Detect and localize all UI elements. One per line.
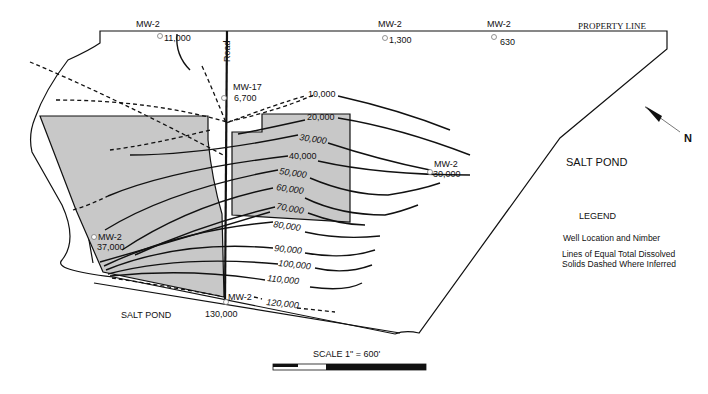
well-marker[interactable] — [222, 96, 227, 101]
scale-segment — [326, 364, 426, 370]
north-arrow-head-icon — [645, 106, 662, 122]
road-label: Road — [222, 40, 232, 62]
isoline-label: 40,000 — [289, 151, 317, 161]
well-id-label: MW-17 — [233, 82, 262, 92]
north-arrow: N — [645, 106, 692, 144]
well-value-label: 30,000 — [433, 169, 461, 179]
legend-item-well: Well Location and Nimber — [563, 233, 660, 243]
legend-item-isoline-2: Solids Dashed Where Inferred — [562, 259, 676, 269]
scale-segment — [273, 364, 298, 367]
well-marker[interactable] — [492, 35, 497, 40]
isoline-label: 10,000 — [308, 89, 336, 99]
well-marker[interactable] — [92, 235, 97, 240]
isoline-label: 100,000 — [278, 258, 311, 271]
well-marker[interactable] — [428, 170, 433, 175]
property-line-label: PROPERTY LINE — [578, 21, 646, 31]
isoline-10000 — [338, 96, 450, 130]
well-value-label: 37,000 — [97, 242, 125, 252]
isoline-label: 110,000 — [267, 273, 300, 286]
isoline-label: 20,000 — [307, 112, 335, 122]
well-id-label: MW-2 — [98, 232, 122, 242]
isoline-label: 80,000 — [273, 219, 302, 233]
north-label: N — [684, 132, 692, 144]
legend-title: LEGEND — [579, 211, 617, 221]
well-value-label: 130,000 — [205, 309, 238, 319]
well-value-label: 1,300 — [389, 35, 412, 45]
salt-pond-label-south: SALT POND — [121, 310, 172, 320]
well-id-label: MW-2 — [228, 292, 252, 302]
well-id-label: MW-2 — [487, 19, 511, 29]
well-value-label: 630 — [500, 37, 515, 47]
well-value-label: 11,000 — [164, 33, 191, 43]
shaded-area-west — [40, 116, 224, 297]
tds-contour-map: Road MW-2 11,000 MW-2 1,300 MW-2 630 MW-… — [0, 0, 708, 394]
scale-bar: SCALE 1" = 600' — [273, 349, 426, 370]
well-id-label: MW-2 — [136, 19, 160, 29]
well-marker[interactable] — [158, 34, 163, 39]
salt-pond-label-east: SALT POND — [566, 156, 627, 168]
well-id-label: MW-2 — [434, 159, 458, 169]
well-marker[interactable] — [383, 36, 388, 41]
well-id-label: MW-2 — [378, 19, 402, 29]
legend-item-isoline-1: Lines of Equal Total Dissolved — [562, 249, 676, 259]
scale-label: SCALE 1" = 600' — [313, 349, 380, 359]
well-value-label: 6,700 — [234, 93, 257, 103]
legend: LEGEND Well Location and Nimber Lines of… — [562, 211, 676, 269]
isoline-label: 90,000 — [274, 243, 302, 256]
south-boundary-line — [94, 283, 400, 333]
